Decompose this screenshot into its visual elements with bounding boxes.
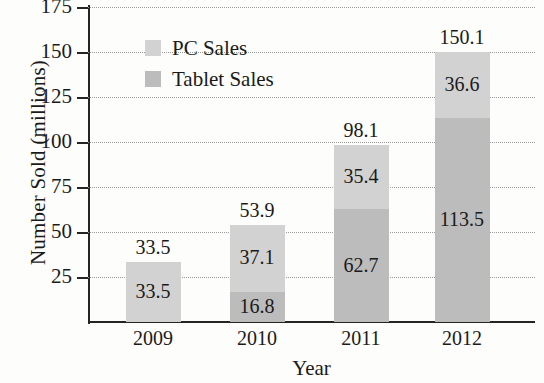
x-axis-label-2011: 2011 — [316, 327, 406, 350]
segment-value-label: 113.5 — [435, 208, 490, 231]
legend-item-tablet-sales[interactable]: Tablet Sales — [145, 67, 274, 91]
y-axis-tick: 75 — [77, 187, 88, 189]
bar-segment-pc-sales-2012[interactable]: 36.6 — [435, 52, 490, 118]
y-axis-tick: 25 — [77, 277, 88, 279]
bar-total-label-2009: 33.5 — [126, 236, 181, 259]
y-axis-tick: 50 — [77, 232, 88, 234]
bar-segment-pc-sales-2009[interactable]: 33.5 — [126, 262, 181, 322]
y-axis-tick-label: 50 — [51, 219, 72, 244]
bar-segment-tablet-sales-2011[interactable]: 62.7 — [334, 209, 389, 322]
bar-2009[interactable]: 33.533.5 — [126, 262, 181, 322]
x-axis-label-2009: 2009 — [108, 327, 198, 350]
x-axis-label-2010: 2010 — [212, 327, 302, 350]
y-axis-tick-label: 75 — [51, 174, 72, 199]
y-axis-tick-label: 175 — [41, 0, 73, 19]
chart-legend: PC SalesTablet Sales — [145, 36, 274, 98]
bar-total-label-2012: 150.1 — [435, 26, 490, 49]
y-axis-tick: 150 — [77, 52, 88, 54]
y-axis-tick-label: 100 — [41, 129, 73, 154]
y-axis-tick-label: 25 — [51, 264, 72, 289]
segment-value-label: 62.7 — [334, 254, 389, 277]
bar-2010[interactable]: 16.837.153.9 — [230, 225, 285, 322]
y-axis-tick: 175 — [77, 7, 88, 9]
gridline — [88, 7, 535, 8]
bar-total-label-2011: 98.1 — [334, 119, 389, 142]
x-axis-label-2012: 2012 — [417, 327, 507, 350]
bar-total-label-2010: 53.9 — [230, 199, 285, 222]
y-axis-tick-label: 125 — [41, 84, 73, 109]
x-axis-title: Year — [88, 356, 535, 381]
bar-2011[interactable]: 62.735.498.1 — [334, 145, 389, 322]
legend-label: PC Sales — [172, 38, 247, 59]
y-axis-title: Number Sold (millions) — [26, 43, 51, 283]
segment-value-label: 36.6 — [435, 73, 490, 96]
y-axis-tick: 100 — [77, 142, 88, 144]
y-axis-tick-label: 150 — [41, 39, 73, 64]
bar-segment-pc-sales-2010[interactable]: 37.1 — [230, 225, 285, 292]
segment-value-label: 33.5 — [126, 280, 181, 303]
stacked-bar-chart: Number Sold (millions) 25507510012515017… — [0, 0, 544, 383]
y-axis-tick: 125 — [77, 97, 88, 99]
legend-label: Tablet Sales — [172, 69, 274, 90]
bar-segment-tablet-sales-2010[interactable]: 16.8 — [230, 292, 285, 322]
bar-segment-tablet-sales-2012[interactable]: 113.5 — [435, 118, 490, 322]
segment-value-label: 35.4 — [334, 165, 389, 188]
legend-item-pc-sales[interactable]: PC Sales — [145, 36, 274, 60]
segment-value-label: 37.1 — [230, 246, 285, 269]
legend-swatch-icon — [145, 71, 161, 87]
bar-2012[interactable]: 113.536.6150.1 — [435, 52, 490, 322]
segment-value-label: 16.8 — [230, 295, 285, 318]
legend-swatch-icon — [145, 40, 161, 56]
bar-segment-pc-sales-2011[interactable]: 35.4 — [334, 145, 389, 209]
